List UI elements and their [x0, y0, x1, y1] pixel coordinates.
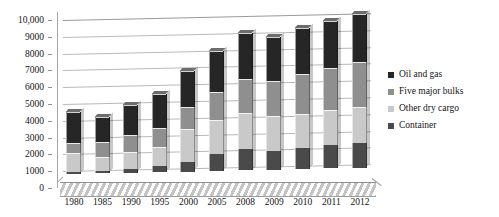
y-axis-tick [48, 37, 52, 38]
segment-divider [181, 71, 194, 72]
bar-segment-other-dry-cargo [295, 114, 310, 148]
bar-segment-five-major-bulks [295, 74, 310, 113]
bar-1995 [152, 94, 167, 172]
stacked-bar-chart: 010002000300040005000600070008000900010,… [0, 0, 499, 217]
y-axis-label: 2000 [25, 149, 44, 159]
y-axis-label: 10,000 [18, 15, 44, 25]
segment-divider [353, 107, 366, 108]
bar-2008 [238, 33, 253, 171]
segment-divider [210, 51, 223, 52]
bar-segment-oil-and-gas [66, 112, 81, 143]
y-axis-tick [48, 154, 52, 155]
bar-top-cap [266, 34, 283, 37]
segment-divider [153, 128, 166, 129]
segment-divider [296, 28, 309, 29]
legend-label: Other dry cargo [399, 103, 459, 114]
bar-segment-container [295, 148, 310, 170]
bar-segment-oil-and-gas [295, 28, 310, 74]
legend-item[interactable]: Container [388, 117, 496, 134]
segment-divider [181, 129, 194, 130]
legend-item[interactable]: Five major bulks [388, 83, 496, 100]
segment-divider [353, 62, 366, 63]
bar-side-face [110, 113, 113, 171]
bar-segment-other-dry-cargo [238, 113, 253, 149]
bar-top-cap [237, 30, 254, 33]
segment-divider [181, 107, 194, 108]
segment-divider [124, 152, 137, 153]
legend-label: Oil and gas [399, 69, 442, 80]
bar-segment-container [238, 149, 253, 170]
bar-side-face [195, 67, 198, 170]
y-axis-label: 9000 [25, 32, 44, 42]
segment-divider [153, 94, 166, 95]
bar-segment-other-dry-cargo [323, 110, 338, 145]
bar-segment-other-dry-cargo [123, 152, 138, 169]
legend-swatch-icon [388, 106, 394, 112]
bar-segment-five-major-bulks [152, 128, 167, 147]
y-axis: 010002000300040005000600070008000900010,… [0, 0, 52, 217]
bar-segment-oil-and-gas [123, 105, 138, 134]
segment-divider [353, 14, 366, 15]
bar-segment-oil-and-gas [180, 71, 195, 107]
y-axis-tick [48, 121, 52, 122]
segment-divider [239, 113, 252, 114]
y-axis-label: 3000 [25, 133, 44, 143]
x-axis: 1980198519901995200020052008200920102011… [57, 197, 387, 213]
segment-divider [210, 120, 223, 121]
segment-divider [67, 153, 80, 154]
bar-segment-five-major-bulks [352, 62, 367, 107]
y-axis-tick [48, 20, 52, 21]
legend-item[interactable]: Other dry cargo [388, 100, 496, 117]
bar-segment-five-major-bulks [95, 142, 110, 157]
bar-segment-other-dry-cargo [152, 147, 167, 166]
bar-segment-container [123, 169, 138, 173]
bar-segment-five-major-bulks [266, 81, 281, 116]
bar-2009 [266, 37, 281, 170]
bar-side-face [167, 90, 170, 171]
bar-group [57, 0, 387, 196]
bar-segment-other-dry-cargo [209, 120, 224, 154]
y-axis-tick [48, 104, 52, 105]
bar-top-cap [66, 109, 83, 112]
bar-1985 [95, 117, 110, 173]
bar-side-face [253, 28, 256, 168]
bar-segment-oil-and-gas [266, 37, 281, 81]
y-axis-tick [48, 188, 52, 189]
y-axis-label: 0 [39, 183, 44, 193]
bar-top-cap [352, 11, 369, 14]
bar-segment-oil-and-gas [352, 14, 367, 62]
bar-segment-oil-and-gas [95, 117, 110, 142]
y-axis-label: 8000 [25, 49, 44, 59]
y-axis-label: 4000 [25, 116, 44, 126]
y-axis-label: 6000 [25, 82, 44, 92]
bar-side-face [367, 10, 370, 166]
bar-top-cap [295, 25, 312, 28]
segment-divider [96, 117, 109, 118]
segment-divider [67, 143, 80, 144]
bar-segment-container [323, 145, 338, 168]
segment-divider [210, 92, 223, 93]
segment-divider [324, 21, 337, 22]
bar-segment-container [352, 143, 367, 168]
segment-divider [153, 147, 166, 148]
segment-divider [96, 157, 109, 158]
bar-2012 [352, 14, 367, 168]
bar-segment-other-dry-cargo [352, 107, 367, 143]
bar-1980 [66, 112, 81, 174]
bar-segment-five-major-bulks [323, 68, 338, 110]
bar-segment-other-dry-cargo [95, 157, 110, 171]
bar-segment-oil-and-gas [152, 94, 167, 128]
y-axis-label: 7000 [25, 65, 44, 75]
bar-segment-five-major-bulks [238, 79, 253, 114]
bar-side-face [310, 24, 313, 168]
segment-divider [324, 110, 337, 111]
legend-swatch-icon [388, 123, 394, 129]
bar-2010 [295, 28, 310, 169]
bar-segment-five-major-bulks [180, 107, 195, 129]
bar-segment-container [266, 151, 281, 170]
x-axis-label: 2012 [343, 197, 377, 208]
bar-segment-five-major-bulks [209, 92, 224, 121]
bar-side-face [81, 107, 84, 172]
bar-segment-five-major-bulks [123, 135, 138, 152]
legend-item[interactable]: Oil and gas [388, 66, 496, 83]
